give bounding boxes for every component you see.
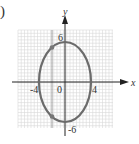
point-lower: [50, 114, 55, 119]
y-tick-neg6: -6: [68, 124, 76, 135]
x-tick-4: 4: [92, 84, 97, 95]
y-tick-6: 6: [58, 32, 63, 43]
ellipse-graph: x y -4 0 4 6 -6: [0, 0, 139, 144]
x-tick-neg4: -4: [30, 84, 38, 95]
point-upper: [50, 45, 55, 50]
x-tick-0: 0: [57, 84, 62, 95]
x-axis-label: x: [130, 77, 136, 88]
y-axis-label: y: [62, 6, 68, 17]
x-axis-arrow-icon: [120, 79, 129, 85]
